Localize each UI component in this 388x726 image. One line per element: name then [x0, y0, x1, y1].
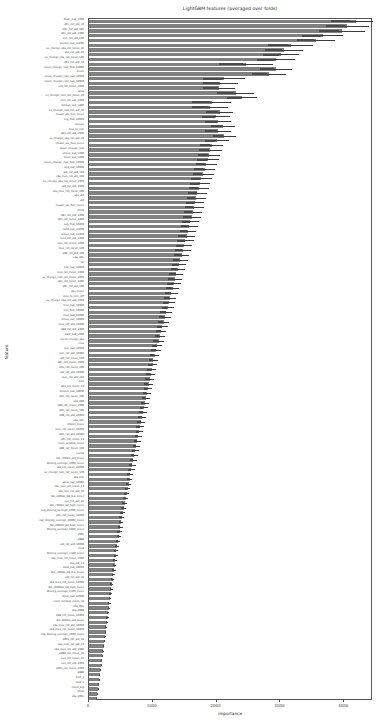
- y-tick-label: q99_roll_std_100: [63, 253, 84, 256]
- bar: [89, 34, 323, 37]
- y-tick-label: abs_max_roll_std_50000: [53, 625, 84, 628]
- error-box: [127, 473, 130, 475]
- error-box: [200, 144, 211, 146]
- y-tick-label: q999: [78, 672, 84, 675]
- error-box: [163, 302, 169, 304]
- error-box: [136, 431, 139, 433]
- y-tick-label: q999_roll_mean_10: [59, 653, 84, 656]
- bar: [89, 272, 176, 275]
- y-tick-label: q99_roll_mean_10000: [56, 615, 84, 618]
- bar: [89, 277, 175, 280]
- y-tick-label: av_change_rate_roll_std_10: [49, 110, 84, 113]
- error-box: [111, 578, 112, 580]
- bar: [89, 454, 134, 457]
- error-box: [105, 631, 106, 633]
- y-tick-label: q99_roll_mean_100: [59, 448, 84, 451]
- y-tick-label: ave_roll_mean_10: [61, 658, 84, 661]
- y-tick-label: min_roll_std_1000: [61, 100, 84, 103]
- y-tick-label: MA_1000MA_BB_high_mean: [48, 587, 84, 590]
- y-tick-label: abs_roll_std_10: [65, 52, 84, 55]
- bar: [89, 320, 164, 323]
- error-box: [268, 44, 288, 46]
- y-tick-label: mad: [78, 548, 84, 551]
- y-tick-label: count_big: [72, 687, 84, 690]
- error-box: [108, 602, 109, 604]
- error-box: [104, 636, 105, 638]
- error-box: [198, 154, 208, 156]
- x-tick-label: 4000: [338, 703, 348, 708]
- bar: [89, 396, 146, 399]
- y-tick-label: min_roll_std_10000: [59, 353, 84, 356]
- error-box: [192, 106, 208, 108]
- error-box: [114, 550, 116, 552]
- bar: [89, 24, 347, 27]
- y-tick-label: max_roll_mean_100: [59, 248, 84, 251]
- bar: [89, 377, 150, 380]
- error-box: [181, 225, 189, 227]
- error-box: [190, 183, 199, 185]
- y-tick-label: Rmin_last_5000: [64, 157, 84, 160]
- y-tick-label: mean_change_rate: [60, 148, 84, 151]
- error-box: [118, 526, 120, 528]
- bar: [89, 525, 120, 528]
- bar: [89, 268, 178, 271]
- error-box: [144, 383, 148, 385]
- bar: [89, 506, 124, 509]
- error-box: [302, 35, 320, 37]
- y-tick-label: MA_700MA_std_mean: [56, 458, 84, 461]
- y-tick-label: q95_roll_mean_100: [59, 410, 84, 413]
- y-tick-label: Mad__last_5000: [64, 19, 84, 22]
- y-tick-label: Rmax_last_50000: [61, 319, 84, 322]
- bar: [89, 282, 174, 285]
- bar: [89, 478, 130, 481]
- x-tick-mark: [216, 700, 217, 702]
- error-box: [193, 173, 202, 175]
- bar: [89, 597, 110, 600]
- bar: [89, 449, 135, 452]
- bar: [89, 473, 130, 476]
- y-tick-label: Hann_window_mean: [58, 443, 84, 446]
- y-tick-label: q99_roll_mean_1000: [58, 405, 84, 408]
- bar: [89, 392, 147, 395]
- y-tick-label: max_roll_std_1000: [60, 238, 84, 241]
- error-box: [165, 292, 171, 294]
- y-tick-label: av_change_abs_roll_mean_10: [46, 48, 84, 51]
- y-tick-label: q01_roll_std_10000: [59, 434, 84, 437]
- y-tick-label: abs_q95: [73, 257, 84, 260]
- error-box: [155, 335, 160, 337]
- error-box: [123, 497, 125, 499]
- error-box: [109, 597, 110, 599]
- error-box: [219, 63, 243, 65]
- y-tick-label: q05_roll_mean_1000: [58, 219, 84, 222]
- bar: [89, 587, 111, 590]
- y-tick-label: min_first_50000: [64, 310, 84, 313]
- bar: [89, 358, 153, 361]
- y-tick-label: q01_roll_mean_10: [61, 386, 84, 389]
- x-tick-label: 2000: [211, 703, 221, 708]
- error-box: [132, 450, 135, 452]
- bar: [89, 230, 188, 233]
- y-tick-label: max_to_min_diff: [63, 296, 84, 299]
- y-tick-label: max_roll_std_10000: [59, 324, 84, 327]
- bar: [89, 530, 120, 533]
- bar: [89, 635, 105, 638]
- bar: [89, 439, 137, 442]
- error-box: [112, 574, 113, 576]
- bar: [89, 354, 155, 357]
- bar: [89, 544, 117, 547]
- error-box: [102, 655, 103, 657]
- bar: [89, 53, 281, 56]
- error-box: [110, 583, 111, 585]
- y-tick-label: Rmean: [75, 124, 84, 127]
- bar: [89, 168, 205, 171]
- bar: [89, 563, 115, 566]
- y-tick-label: Hilbert_mean: [67, 424, 84, 427]
- bar: [89, 668, 100, 671]
- y-tick-label: Moving_average_6000_mean: [47, 529, 84, 532]
- error-box: [252, 73, 267, 75]
- y-tick-label: avg_Moving_average_6000_mean: [41, 510, 84, 513]
- bar: [89, 91, 236, 94]
- y-tick-label: q001_roll_mean_1000: [56, 668, 84, 671]
- y-tick-label: mean_change_rate_last_50000: [44, 81, 84, 84]
- y-tick-label: q001: [78, 534, 84, 537]
